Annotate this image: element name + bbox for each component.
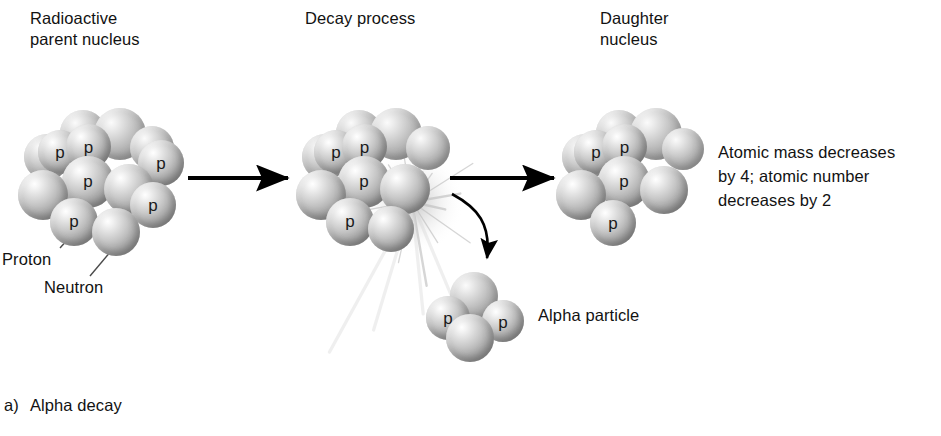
label-alpha-particle: Alpha particle [538, 306, 639, 325]
neutron-sphere [640, 166, 688, 214]
neutron-sphere [446, 314, 494, 362]
proton-sphere: p [590, 200, 636, 246]
label-neutron: Neutron [44, 278, 103, 297]
proton-symbol: p [66, 138, 111, 158]
proton-symbol: p [130, 196, 176, 216]
neutron-sphere [406, 126, 450, 170]
proton-sphere: p [326, 198, 374, 246]
caption-text: Alpha decay [30, 396, 122, 414]
figure-caption: a)Alpha decay [4, 396, 122, 415]
neutron-sphere [92, 208, 140, 256]
proton-sphere: p [50, 198, 98, 246]
neutron-sphere [662, 128, 704, 170]
proton-symbol: p [50, 212, 98, 232]
alpha-decay-figure: Radioactive parent nucleus Decay process… [0, 0, 941, 436]
neutron-sphere [368, 206, 414, 252]
caption-index: a) [4, 396, 19, 414]
proton-symbol: p [602, 138, 647, 158]
proton-symbol: p [590, 214, 636, 234]
proton-symbol: p [342, 138, 387, 158]
label-proton: Proton [2, 250, 51, 269]
proton-symbol: p [326, 212, 374, 232]
arrow-alpha-emission [452, 194, 488, 258]
